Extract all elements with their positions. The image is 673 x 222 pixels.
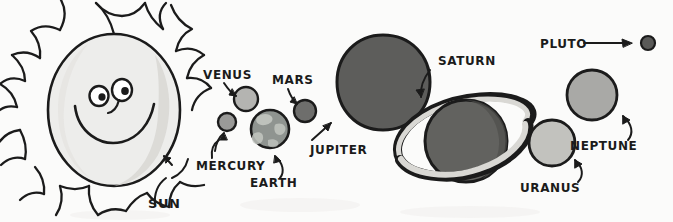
planet-mercury [218,113,236,131]
sun-label: SUN [148,196,181,211]
mars-label: MARS [272,73,314,87]
mars-callout [288,89,297,104]
saturn-label: SATURN [438,54,496,68]
neptune-callout [623,116,631,140]
sun-group[interactable]: SUN [0,0,211,215]
sun-pupil-left [98,93,105,101]
diagram-canvas: SUN MERCURY VENUS [0,0,673,222]
planet-neptune-group[interactable]: NEPTUNE [567,70,637,153]
jupiter-label: JUPITER [309,143,367,157]
pluto-callout [584,39,632,47]
neptune-label: NEPTUNE [570,139,637,153]
mercury-label: MERCURY [196,159,265,173]
planet-earth-group[interactable]: EARTH [250,110,297,190]
planet-venus [234,87,258,111]
solar-system-diagram: SUN MERCURY VENUS [0,0,673,222]
planet-venus-group[interactable]: VENUS [203,68,258,111]
planet-jupiter-group[interactable]: JUPITER [309,35,430,157]
planet-pluto [641,36,655,50]
uranus-label: URANUS [520,181,580,195]
venus-callout [224,83,236,96]
paper-texture [70,198,540,220]
jupiter-callout [312,123,331,140]
earth-callout [274,156,283,178]
planet-neptune [567,70,617,120]
planet-uranus [529,120,575,166]
planet-pluto-group[interactable]: PLUTO [540,36,655,51]
mercury-callout [212,133,227,158]
pluto-label: PLUTO [540,37,587,51]
sun-pupil-right [121,87,129,95]
venus-label: VENUS [203,68,252,82]
uranus-callout [575,160,582,182]
earth-label: EARTH [250,176,297,190]
